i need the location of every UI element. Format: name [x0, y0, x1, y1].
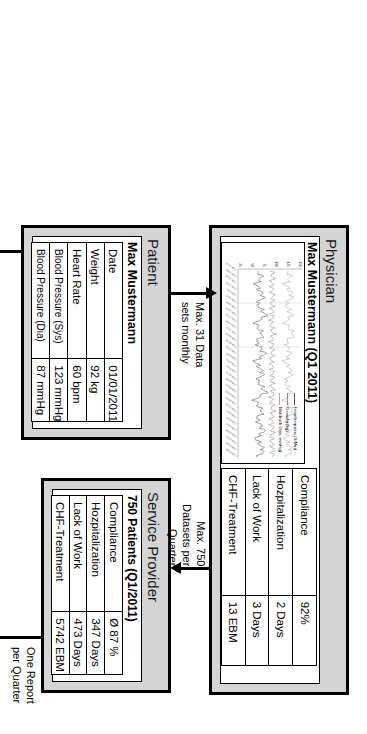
cell-value: 92 kg	[87, 359, 104, 421]
table-row: Blood Pressure (Sys) 123 mmHg	[49, 243, 67, 421]
service-provider-subject: 750 Patients (Q1/2011)	[125, 495, 139, 622]
legend-item: Blutdruck (Sys, mmHg)	[276, 393, 283, 452]
patient-title: Patient	[145, 239, 162, 286]
series-line	[252, 271, 268, 457]
arrowhead-icon	[206, 287, 217, 299]
cell-label: Weight	[87, 243, 104, 359]
cell-value: Ø 87 %	[105, 612, 122, 674]
cell-value: 01/01/2011	[105, 359, 122, 421]
cell-value: 92%	[293, 596, 316, 665]
svg-text:150: 150	[298, 261, 302, 267]
connector-patient-hi-v	[0, 250, 21, 253]
legend-swatch-icon	[287, 393, 288, 405]
arrow-label-physician-service-provider: Max. 750 Datasets per Quarter	[166, 504, 207, 566]
arrow-label-line: sets monthly	[179, 302, 193, 367]
arrow-label-line: Datasets per	[180, 504, 194, 566]
diagram-canvas: Physician Max Mustermann (Q1 2011) 15012…	[0, 0, 367, 734]
table-row: Weight 92 kg	[86, 243, 104, 421]
cell-label: CHF-Treatment	[222, 469, 245, 596]
cell-value: 3 Days	[246, 596, 269, 665]
cell-label: Blood Pressure (Sys)	[50, 243, 67, 359]
arrow-label-line: Quarter	[166, 504, 180, 566]
table-row: Compliance Ø 87 %	[104, 496, 122, 674]
cell-value: 87 mmHg	[32, 359, 49, 421]
arrow-label-patient-physician: Max. 31 Data sets monthly	[179, 302, 207, 367]
cell-label: Lack of Work	[246, 469, 269, 596]
service-provider-table: Compliance Ø 87 % Hozpitalization 347 Da…	[51, 495, 123, 675]
svg-text:50: 50	[250, 263, 254, 267]
patient-subject: Max Mustermann	[125, 242, 139, 344]
cell-label: Heart Rate	[68, 243, 85, 359]
table-row: Lack of Work 3 Days	[245, 469, 269, 665]
cell-value: 13 EBM	[222, 596, 245, 665]
arrow-label-service-provider-hi: One Report per Quarter	[10, 647, 38, 704]
cell-label: Hozpitalization	[270, 469, 293, 596]
physician-chart: 150125100755025 01.01.201104.01.201107.0…	[221, 242, 305, 464]
cell-label: Blood Pressure (Dia)	[32, 243, 49, 359]
svg-text:125: 125	[286, 261, 290, 267]
cell-value: 60 bpm	[68, 359, 85, 421]
legend-label: Blutdruck (Sys, mmHg)	[276, 407, 283, 452]
arrow-label-line: Max. 31 Data	[192, 302, 206, 367]
table-row: Hozpitalization 2 Days	[269, 469, 293, 665]
cell-label: Compliance	[293, 469, 316, 596]
cell-label: CHF-Treatment	[52, 496, 69, 612]
table-row: Compliance 92%	[292, 469, 316, 665]
legend-swatch-icon	[279, 393, 280, 405]
legend-label: Gewicht (kg)	[284, 407, 291, 432]
legend-item: Gewicht (kg)	[284, 393, 291, 452]
cell-label: Hozpitalization	[88, 496, 105, 612]
cell-value: 123 mmHg	[50, 359, 67, 421]
table-row: Date 01/01/2011	[104, 243, 122, 421]
cell-label: Date	[105, 243, 122, 359]
connector-physician-service-provider	[179, 567, 209, 570]
service-provider-title: Service Provider	[145, 492, 162, 602]
connector-patient-physician	[171, 292, 207, 295]
table-row: Hozpitalization 347 Days	[87, 496, 105, 674]
diagram-frame: Physician Max Mustermann (Q1 2011) 15012…	[0, 0, 367, 734]
physician-title: Physician	[323, 239, 340, 303]
legend-swatch-icon	[294, 393, 295, 405]
connector-service-provider-hi-v2	[0, 636, 21, 639]
table-row: CHF-Treatment 5742 EBM	[52, 496, 69, 674]
arrow-label-line: per Quarter	[10, 647, 24, 704]
cell-value: 5742 EBM	[52, 612, 69, 674]
legend-label: Heartfrequenz (S/Min)	[291, 407, 298, 450]
physician-table: Compliance 92% Hozpitalization 2 Days La…	[221, 468, 317, 666]
svg-text:100: 100	[274, 261, 278, 267]
physician-subject: Max Mustermann (Q1 2011)	[305, 242, 319, 403]
connector-service-provider-hi-v	[19, 636, 41, 639]
cell-label: Compliance	[105, 496, 122, 612]
cell-value: 347 Days	[88, 612, 105, 674]
svg-text:25: 25	[238, 263, 242, 267]
cell-value: 2 Days	[270, 596, 293, 665]
arrow-label-line: One Report	[23, 647, 37, 704]
chart-legend: Heartfrequenz (S/Min) Gewicht (kg) Blutd…	[275, 393, 298, 452]
patient-table: Date 01/01/2011 Weight 92 kg Heart Rate …	[31, 242, 123, 422]
arrow-label-line: Max. 750	[193, 504, 207, 566]
table-row: Heart Rate 60 bpm	[67, 243, 85, 421]
cell-value: 473 Days	[70, 612, 87, 674]
cell-label: Lack of Work	[70, 496, 87, 612]
table-row: CHF-Treatment 13 EBM	[222, 469, 245, 665]
svg-text:75: 75	[262, 263, 266, 267]
table-row: Blood Pressure (Dia) 87 mmHg	[32, 243, 49, 421]
table-row: Lack of Work 473 Days	[69, 496, 87, 674]
legend-item: Heartfrequenz (S/Min)	[291, 393, 298, 452]
